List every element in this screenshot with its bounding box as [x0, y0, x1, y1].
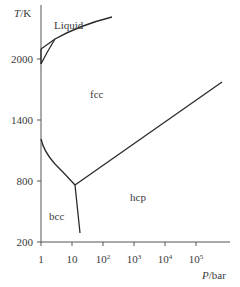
region-label-bcc: bcc: [49, 211, 64, 222]
x-axis-label: P/bar: [202, 270, 226, 281]
y-tick-label-2000: 2000: [3, 54, 33, 65]
x-tick-base: 10: [158, 253, 169, 265]
x-tick-base: 10: [127, 253, 138, 265]
x-tick-base: 10: [96, 253, 107, 265]
x-tick-label-10: 10: [60, 254, 84, 265]
liquid-bcc-boundary: [41, 39, 55, 64]
x-axis-variable: P: [202, 269, 209, 281]
phase-diagram-plot: [0, 0, 240, 287]
y-axis-label: T/K: [14, 8, 31, 19]
region-label-liquid: Liquid: [54, 20, 83, 31]
x-tick-exponent: 4: [169, 253, 173, 261]
bcc-fcc-boundary: [41, 139, 75, 185]
x-tick-exponent: 3: [138, 253, 142, 261]
x-tick-exponent: 5: [200, 253, 204, 261]
x-tick-exponent: 2: [107, 253, 111, 261]
bcc-hcp-boundary: [75, 185, 80, 233]
x-tick-label-10000: 104: [153, 254, 177, 265]
y-tick-label-200: 200: [3, 237, 33, 248]
x-tick-label-1000: 103: [122, 254, 146, 265]
y-tick-label-1400: 1400: [3, 115, 33, 126]
x-tick-base: 10: [189, 253, 200, 265]
x-tick-label-100: 102: [91, 254, 115, 265]
x-tick-label-100000: 105: [184, 254, 208, 265]
region-label-hcp: hcp: [130, 192, 146, 203]
y-axis-unit: /K: [20, 7, 31, 19]
region-label-fcc: fcc: [90, 89, 103, 100]
x-tick-label-1: 1: [29, 254, 53, 265]
y-tick-label-800: 800: [3, 176, 33, 187]
x-axis-unit: /bar: [209, 269, 226, 281]
